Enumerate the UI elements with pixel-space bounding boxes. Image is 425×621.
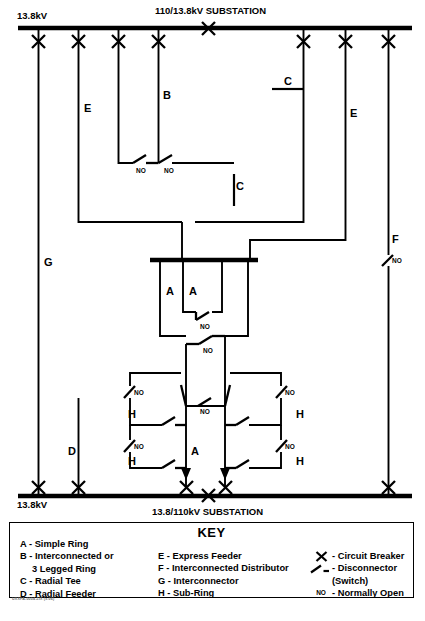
footer-document-code: UXXFA-0004.ZIX (x.06) <box>12 597 54 601</box>
label-no-subring-center: NO <box>200 408 210 415</box>
label-no-f: NO <box>392 257 402 264</box>
key-label-circuit-breaker: - Circuit Breaker <box>332 550 404 562</box>
key-item-h: H - Sub-Ring <box>158 587 289 599</box>
label-feeder-c2: C <box>236 180 244 192</box>
circuit-breaker-icon <box>310 550 332 562</box>
key-label-switch: (Switch) <box>332 575 368 587</box>
label-subring-h3: H <box>296 408 304 420</box>
label-ring-a1: A <box>166 285 174 297</box>
key-item-g: G - Interconnector <box>158 575 289 587</box>
label-feeder-e2: E <box>350 107 357 119</box>
disconnector-no-b-right[interactable] <box>159 155 173 163</box>
label-feeder-e1: E <box>84 102 91 114</box>
subring-h4-bottom <box>249 452 281 468</box>
subring-h3-bottom <box>249 398 281 425</box>
label-bottom-substation: 13.8/110kV SUBSTATION <box>152 506 263 517</box>
key-item-b-cont: 3 Legged Ring <box>20 563 114 575</box>
key-column-definitions-b: E - Express Feeder F - Interconnected Di… <box>158 550 289 600</box>
label-no-a-inner: NO <box>200 323 210 330</box>
key-item-c: C - Radial Tee <box>20 575 114 587</box>
label-subring-h4: H <box>296 455 304 467</box>
disconnector-h1-right[interactable] <box>162 417 186 425</box>
label-subring-h1: H <box>128 408 136 420</box>
single-line-diagram: NO NO NO NO <box>0 0 425 621</box>
arrow-subring-right <box>220 468 230 480</box>
label-no-h3: NO <box>285 389 295 396</box>
key-item-a: A - Simple Ring <box>20 538 114 550</box>
subring-h1-top <box>130 373 181 386</box>
key-legend-box: KEY A - Simple Ring B - Interconnected o… <box>9 522 414 598</box>
ring-a-inner-right <box>212 260 222 312</box>
arrow-subring-left <box>181 468 191 480</box>
disconnector-no-a-outer[interactable] <box>186 336 225 344</box>
label-feeder-b: B <box>163 89 171 101</box>
disconnector-h2-right[interactable] <box>162 460 186 468</box>
label-no-a-outer: NO <box>203 347 213 354</box>
label-ring-a2: A <box>189 285 197 297</box>
disconnector-icon <box>310 562 332 574</box>
key-column-definitions-a: A - Simple Ring B - Interconnected or 3 … <box>20 538 114 600</box>
normally-open-icon: NO <box>310 587 332 599</box>
label-ring-a3: A <box>191 445 199 457</box>
label-voltage-top-left: 13.8kV <box>17 10 48 21</box>
disconnector-no-b-left[interactable] <box>133 155 159 163</box>
disconnector-h4-left[interactable] <box>225 460 249 468</box>
label-feeder-g: G <box>44 256 53 268</box>
disconnector-no-a-inner[interactable] <box>196 312 209 320</box>
key-symbol-disconnector: - Disconnector <box>310 562 404 574</box>
feeder-e-right <box>250 28 346 258</box>
disconnector-h3-left[interactable] <box>225 417 249 425</box>
label-no-b-left: NO <box>136 167 146 174</box>
key-symbol-switch-cont: (Switch) <box>310 575 404 587</box>
label-no-b-right: NO <box>164 167 174 174</box>
key-item-b: B - Interconnected or <box>20 550 114 562</box>
label-feeder-d: D <box>68 445 76 457</box>
key-column-symbols: - Circuit Breaker - Disconnector (Switch… <box>310 550 404 600</box>
key-item-f: F - Interconnected Distributor <box>158 562 289 574</box>
label-no-h1: NO <box>134 389 144 396</box>
label-top-substation: 110/13.8kV SUBSTATION <box>155 5 266 16</box>
feeder-c-main <box>195 28 304 222</box>
label-no-h2: NO <box>134 443 144 450</box>
label-no-h4: NO <box>285 443 295 450</box>
feeder-b-leg-left <box>119 28 134 163</box>
key-label-normally-open: - Normally Open <box>332 587 404 599</box>
key-symbol-circuit-breaker: - Circuit Breaker <box>310 550 404 562</box>
subring-h3-top <box>230 373 281 386</box>
label-feeder-f: F <box>392 233 399 245</box>
label-subring-h2: H <box>128 455 136 467</box>
label-voltage-bottom-left: 13.8kV <box>17 499 48 510</box>
feeder-e-left <box>79 28 183 222</box>
ring-a-outer-right <box>225 260 248 336</box>
label-feeder-c1: C <box>284 75 292 87</box>
disconnector-no-subring-top-center[interactable] <box>198 398 211 406</box>
key-label-disconnector: - Disconnector <box>332 562 397 574</box>
key-symbol-normally-open: NO - Normally Open <box>310 587 404 599</box>
key-item-e: E - Express Feeder <box>158 550 289 562</box>
